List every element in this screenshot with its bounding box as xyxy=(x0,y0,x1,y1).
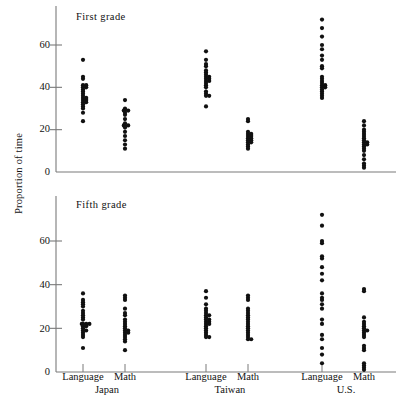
xtick-taiwan-math: Math xyxy=(228,371,268,382)
panel-title-first-grade: First grade xyxy=(76,11,126,22)
ytick-fifth-20: 20 xyxy=(24,323,50,334)
xtick-japan-math: Math xyxy=(105,371,145,382)
plot-canvas xyxy=(0,0,398,396)
xtick-us-language: Language xyxy=(294,371,350,382)
panel-title-fifth-grade: Fifth grade xyxy=(76,199,127,210)
dot-plot-figure: Proportion of time First grade Fifth gra… xyxy=(0,0,398,396)
xtick-japan-language: Language xyxy=(55,371,111,382)
country-label-us: U.S. xyxy=(306,384,386,395)
country-label-taiwan: Taiwan xyxy=(190,384,270,395)
y-axis-label: Proportion of time xyxy=(13,104,24,244)
ytick-first-40: 40 xyxy=(24,81,50,92)
ytick-first-20: 20 xyxy=(24,123,50,134)
ytick-first-0: 0 xyxy=(24,166,50,177)
country-label-japan: Japan xyxy=(67,384,147,395)
ytick-fifth-40: 40 xyxy=(24,279,50,290)
ytick-first-60: 60 xyxy=(24,39,50,50)
xtick-taiwan-language: Language xyxy=(178,371,234,382)
ytick-fifth-0: 0 xyxy=(24,366,50,377)
ytick-fifth-60: 60 xyxy=(24,235,50,246)
xtick-us-math: Math xyxy=(344,371,384,382)
